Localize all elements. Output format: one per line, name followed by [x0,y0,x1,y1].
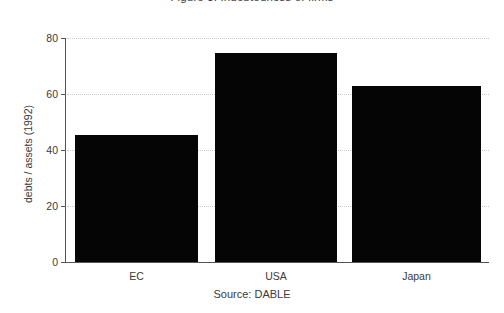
y-axis-tick-label: 80 [46,32,58,44]
chart-title: Figure 3: Indebtedness of firms [0,0,504,3]
y-axis-line [65,38,66,263]
bar [215,53,337,262]
x-axis-tick-label: Japan [402,270,431,282]
bar [75,135,198,262]
gridline [67,38,489,40]
y-axis-title: debts / assets (1992) [22,74,34,234]
chart-figure: Figure 3: Indebtedness of firms debts / … [0,0,504,313]
bar [352,86,481,262]
y-axis-tick-label: 40 [46,144,58,156]
x-axis-tick-label: EC [129,270,144,282]
y-axis-tick-label: 20 [46,200,58,212]
y-axis-tick-label: 60 [46,88,58,100]
plot-area: 020406080 ECUSAJapan [65,38,489,262]
x-axis-tick-label: USA [265,270,287,282]
x-axis-line [65,262,489,263]
y-axis-tick-label: 0 [52,256,58,268]
source-caption: Source: DABLE [0,288,504,300]
